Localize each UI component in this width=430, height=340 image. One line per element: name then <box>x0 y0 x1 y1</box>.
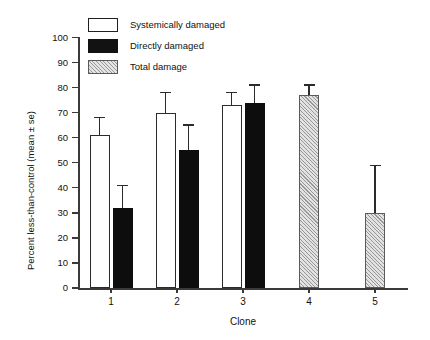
y-tick-label: 10 <box>6 258 68 268</box>
y-tick-mark <box>72 137 78 138</box>
error-bar-stem <box>122 185 123 208</box>
legend-swatch-icon-directly-damaged <box>88 39 118 53</box>
error-bar-stem <box>188 125 189 150</box>
x-tick-label: 1 <box>91 297 131 307</box>
y-tick-label: 80 <box>6 83 68 93</box>
bar-5-total <box>365 213 385 288</box>
y-tick-mark <box>72 112 78 113</box>
y-tick-mark <box>72 37 78 38</box>
y-tick-label: 20 <box>6 233 68 243</box>
y-axis-line <box>78 37 80 289</box>
bar-1-systemic <box>90 135 110 288</box>
error-bar-cap <box>94 117 105 118</box>
legend-label-directly-damaged: Directly damaged <box>130 40 204 51</box>
y-tick-label: 30 <box>6 208 68 218</box>
y-tick-label: 0 <box>6 283 68 293</box>
x-tick-mark <box>110 288 111 293</box>
x-tick-label: 2 <box>157 297 197 307</box>
x-tick-mark <box>308 288 309 293</box>
error-bar-cap <box>183 124 194 125</box>
y-tick-label: 60 <box>6 133 68 143</box>
y-tick-mark <box>72 287 78 288</box>
y-tick-mark <box>72 212 78 213</box>
legend-swatch-icon-total-damage <box>88 60 118 74</box>
legend-label-total-damage: Total damage <box>130 61 187 72</box>
bar-1-direct <box>113 208 133 288</box>
error-bar-cap <box>160 92 171 93</box>
x-axis-label: Clone <box>78 317 408 327</box>
bar-2-systemic <box>156 113 176 288</box>
bar-2-direct <box>179 150 199 288</box>
bar-3-direct <box>245 103 265 288</box>
error-bar-stem <box>231 93 232 106</box>
error-bar-cap <box>304 84 315 85</box>
error-bar-stem <box>374 165 375 213</box>
error-bar-stem <box>99 118 100 136</box>
bar-3-systemic <box>222 105 242 288</box>
error-bar-cap <box>226 92 237 93</box>
legend-swatch-icon-systemically-damaged <box>88 18 118 32</box>
y-tick-mark <box>72 237 78 238</box>
y-tick-mark <box>72 262 78 263</box>
x-tick-mark <box>374 288 375 293</box>
x-tick-label: 5 <box>355 297 395 307</box>
y-tick-mark <box>72 87 78 88</box>
error-bar-stem <box>308 85 309 95</box>
bar-chart-figure: Percent less-than-control (mean ± se) Cl… <box>0 0 430 340</box>
error-bar-cap <box>117 185 128 186</box>
bar-4-total <box>299 95 319 288</box>
y-tick-mark <box>72 62 78 63</box>
y-tick-label: 50 <box>6 158 68 168</box>
y-tick-mark <box>72 162 78 163</box>
x-tick-label: 4 <box>289 297 329 307</box>
x-tick-label: 3 <box>223 297 263 307</box>
y-tick-label: 100 <box>6 33 68 43</box>
error-bar-stem <box>165 93 166 113</box>
x-tick-mark <box>176 288 177 293</box>
error-bar-cap <box>249 84 260 85</box>
legend-label-systemically-damaged: Systemically damaged <box>130 19 225 30</box>
y-tick-label: 70 <box>6 108 68 118</box>
y-tick-label: 40 <box>6 183 68 193</box>
error-bar-cap <box>370 165 381 166</box>
y-tick-label: 90 <box>6 58 68 68</box>
y-tick-mark <box>72 187 78 188</box>
error-bar-stem <box>254 85 255 103</box>
x-tick-mark <box>242 288 243 293</box>
